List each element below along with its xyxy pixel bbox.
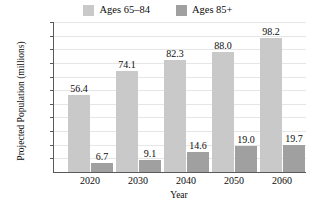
bar-2040-ages-65-84[interactable]: 82.3 (164, 60, 186, 172)
bar-value-2020-ages-85-plus: 6.7 (85, 152, 119, 163)
legend-swatch-icon-ages-85-plus (176, 5, 187, 16)
bar-value-2030-ages-85-plus: 9.1 (133, 149, 167, 160)
bar-value-2020-ages-65-84: 56.4 (62, 84, 96, 95)
x-tick-label-2060: 2060 (252, 176, 312, 186)
bar-chart: Ages 65–84 Ages 85+ Projected Population… (0, 0, 316, 208)
bar-2030-ages-85-plus[interactable]: 9.1 (139, 160, 161, 172)
legend-swatch-icon-ages-65-84 (83, 5, 94, 16)
legend-label-ages-85-plus: Ages 85+ (192, 5, 233, 16)
bar-2050-ages-65-84[interactable]: 88.0 (212, 52, 234, 172)
bar-group-2030: 74.1 9.1 (116, 22, 162, 172)
legend-item-ages-65-84: Ages 65–84 (83, 5, 149, 16)
bar-value-2030-ages-65-84: 74.1 (110, 60, 144, 71)
legend-label-ages-65-84: Ages 65–84 (99, 5, 149, 16)
plot-area: 56.4 6.7 74.1 9.1 82.3 14.6 (53, 22, 306, 173)
bar-2040-ages-85-plus[interactable]: 14.6 (187, 152, 209, 172)
bar-group-2060: 98.2 19.7 (260, 22, 306, 172)
bar-value-2050-ages-85-plus: 19.0 (229, 135, 263, 146)
bar-group-2020: 56.4 6.7 (68, 22, 114, 172)
bar-2020-ages-85-plus[interactable]: 6.7 (91, 163, 113, 172)
bar-value-2060-ages-65-84: 98.2 (254, 27, 288, 38)
bar-series-container: 56.4 6.7 74.1 9.1 82.3 14.6 (54, 22, 306, 172)
bar-value-2040-ages-65-84: 82.3 (158, 49, 192, 60)
bar-group-2050: 88.0 19.0 (212, 22, 258, 172)
x-axis-title: Year (53, 190, 305, 200)
bar-value-2060-ages-85-plus: 19.7 (277, 134, 311, 145)
y-axis-title: Projected Population (millions) (16, 26, 26, 176)
bar-value-2040-ages-85-plus: 14.6 (181, 141, 215, 152)
chart-legend: Ages 65–84 Ages 85+ (0, 1, 316, 19)
bar-2050-ages-85-plus[interactable]: 19.0 (235, 146, 257, 172)
bar-2060-ages-85-plus[interactable]: 19.7 (283, 145, 305, 172)
bar-value-2050-ages-65-84: 88.0 (206, 41, 240, 52)
legend-item-ages-85-plus: Ages 85+ (176, 5, 233, 16)
bar-2060-ages-65-84[interactable]: 98.2 (260, 38, 282, 172)
bar-group-2040: 82.3 14.6 (164, 22, 210, 172)
